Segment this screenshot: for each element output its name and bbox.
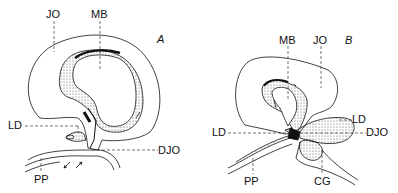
label-ld-left-b: LD	[212, 127, 226, 138]
label-djo-b: DJO	[366, 127, 388, 138]
label-cg-b: CG	[314, 176, 331, 187]
label-ld-a: LD	[8, 120, 22, 131]
diagram-drawing	[0, 0, 398, 193]
label-mb-a: MB	[91, 9, 108, 20]
label-djo-a: DJO	[158, 145, 180, 156]
panel-letter-a: A	[157, 34, 164, 45]
label-mb-b: MB	[279, 35, 296, 46]
label-ld-right-b: LD	[352, 114, 366, 125]
label-pp-b: PP	[244, 176, 259, 187]
panel-b-drawing	[228, 57, 358, 185]
panel-letter-b: B	[345, 35, 352, 46]
label-pp-a: PP	[34, 174, 49, 185]
label-jo-b: JO	[313, 35, 327, 46]
panel-a-drawing	[25, 35, 160, 172]
label-jo-a: JO	[46, 9, 60, 20]
